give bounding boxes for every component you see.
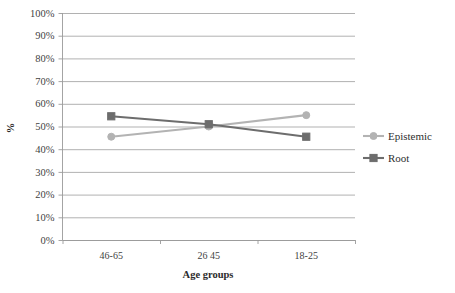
legend-label: Epistemic [388,130,432,142]
y-tick-label: 0% [41,235,55,246]
chart-background [0,0,455,293]
x-axis-title: Age groups [183,269,234,280]
data-point-marker [108,113,115,120]
x-tick-label: 18-25 [295,250,318,261]
x-tick-label: 26 45 [198,250,221,261]
y-tick-label: 40% [35,144,55,155]
data-point-marker [303,133,310,140]
x-tick-label: 46-65 [100,250,123,261]
y-tick-label: 30% [35,167,55,178]
data-point-marker [303,112,310,119]
legend-label: Root [388,152,409,164]
data-point-marker [205,121,212,128]
y-tick-label: 20% [35,189,55,200]
y-tick-label: 90% [35,30,55,41]
y-tick-label: 70% [35,76,55,87]
y-tick-label: 10% [35,212,55,223]
y-tick-label: 100% [30,8,55,19]
y-tick-label: 50% [35,121,55,132]
y-tick-label: 60% [35,98,55,109]
chart-canvas: 0%10%20%30%40%50%60%70%80%90%100% 46-652… [0,0,455,293]
line-chart: 0%10%20%30%40%50%60%70%80%90%100% 46-652… [0,0,455,293]
y-tick-label: 80% [35,53,55,64]
data-point-marker [108,133,115,140]
y-axis-title: % [5,123,16,134]
legend-marker [370,154,377,161]
legend-marker [370,133,377,140]
